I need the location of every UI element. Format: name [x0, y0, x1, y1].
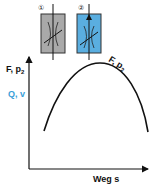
symbol-2-number: ②	[78, 4, 84, 11]
x-axis-label: Weg s	[93, 174, 119, 184]
force-pressure-curve	[44, 63, 148, 132]
y-axis-label-force-pressure: F, p2	[6, 64, 25, 75]
y-axis-label-flow-velocity: Q, v	[8, 89, 25, 99]
diagram-canvas: ① ② F, p2 Q, v Weg s F, p2	[0, 0, 155, 188]
symbol-1-number: ①	[38, 4, 44, 11]
curve-label: F, p2	[106, 54, 128, 73]
throttle-valve-symbol-2: ②	[77, 4, 101, 60]
throttle-valve-symbol-1: ①	[38, 4, 65, 60]
